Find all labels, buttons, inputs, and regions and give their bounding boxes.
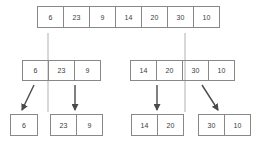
- array-cell: 23: [63, 6, 90, 28]
- array-cell: 23: [50, 114, 77, 136]
- arrow-to-bot-1-icon: [22, 85, 34, 110]
- array-cell: 9: [89, 6, 116, 28]
- array-cell: 14: [131, 114, 158, 136]
- array-cell: 23: [48, 60, 75, 81]
- array-bot-4: 30 10: [198, 114, 251, 136]
- array-cell: 30: [167, 6, 194, 28]
- array-cell: 14: [130, 60, 157, 81]
- array-mid-left: 6 23 9: [22, 60, 101, 81]
- array-cell: 6: [22, 60, 49, 81]
- merge-sort-diagram: 6 23 9 14 20 30 10 6 23 9 14 20 30 10 6 …: [0, 0, 260, 146]
- array-mid-right: 14 20 30 10: [130, 60, 235, 81]
- array-cell: 10: [193, 6, 220, 28]
- arrow-to-bot-4-icon: [202, 85, 218, 110]
- array-cell: 20: [157, 114, 184, 136]
- array-cell: 30: [182, 60, 209, 81]
- array-cell: 6: [37, 6, 64, 28]
- array-bot-3: 14 20: [131, 114, 184, 136]
- array-cell: 20: [141, 6, 168, 28]
- array-cell: 14: [115, 6, 142, 28]
- array-cell: 10: [208, 60, 235, 81]
- array-cell: 6: [10, 114, 38, 136]
- array-cell: 9: [74, 60, 101, 81]
- array-bot-1: 6: [10, 114, 38, 136]
- array-cell: 30: [198, 114, 225, 136]
- array-cell: 20: [156, 60, 183, 81]
- array-bot-2: 23 9: [50, 114, 103, 136]
- array-cell: 10: [224, 114, 251, 136]
- array-cell: 9: [76, 114, 103, 136]
- array-top: 6 23 9 14 20 30 10: [37, 6, 220, 28]
